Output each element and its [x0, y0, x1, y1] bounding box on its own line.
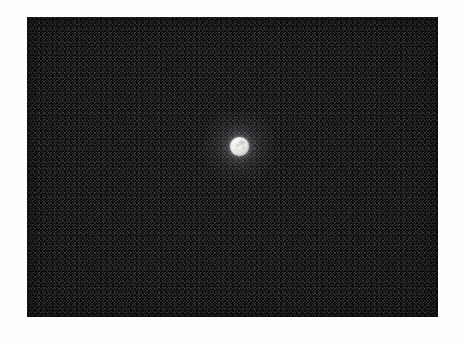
moon-disc [230, 137, 249, 156]
photograph-page: Photograph of the full Moon as a small b… [0, 0, 465, 345]
photo-print-area [27, 17, 438, 317]
limb-darkening-overlay [230, 137, 249, 156]
film-grain-layer-dark [27, 17, 438, 317]
moon-container [222, 129, 256, 163]
